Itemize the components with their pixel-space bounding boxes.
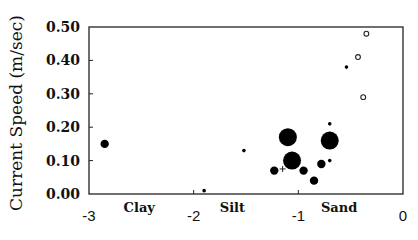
data-point-filled	[101, 140, 109, 148]
data-point-open	[356, 55, 361, 60]
data-point-open	[361, 95, 366, 100]
y-tick-label: 0.30	[46, 86, 80, 102]
y-tick-label: 0.20	[46, 119, 80, 135]
y-tick-label: 0.00	[46, 186, 80, 202]
data-point-filled	[279, 128, 297, 146]
axes	[89, 27, 403, 194]
plot-frame	[89, 27, 403, 194]
data-point-filled	[299, 166, 307, 174]
data-point-filled	[345, 65, 349, 69]
y-tick-label: 0.50	[46, 19, 80, 35]
x-tick-label: 0	[399, 207, 407, 224]
data-point-filled	[310, 176, 318, 184]
x-tick-label: -2	[187, 207, 200, 224]
data-point-filled	[328, 122, 332, 126]
y-tick-label: 0.40	[46, 52, 80, 68]
x-tick-label: -1	[292, 207, 305, 224]
y-tick-label: 0.10	[46, 153, 80, 169]
category-label-sand: Sand	[321, 200, 357, 215]
data-point-plus	[280, 166, 286, 172]
data-point-filled	[283, 152, 301, 170]
data-points	[101, 31, 369, 192]
data-point-filled	[328, 159, 332, 163]
data-point-filled	[270, 166, 278, 174]
data-point-filled	[317, 160, 325, 168]
category-label-clay: Clay	[124, 200, 156, 215]
y-axis-title: Current Speed (m/sec)	[6, 15, 26, 211]
data-point-filled	[242, 149, 246, 153]
axis-labels: 0.000.100.200.300.400.50-3-2-10ClaySiltS…	[46, 19, 407, 224]
x-tick-label: -3	[82, 207, 95, 224]
data-point-open	[364, 31, 369, 36]
data-point-filled	[202, 189, 206, 193]
data-point-filled	[321, 132, 339, 150]
category-label-silt: Silt	[220, 200, 245, 215]
scatter-chart: 0.000.100.200.300.400.50-3-2-10ClaySiltS…	[0, 0, 418, 240]
